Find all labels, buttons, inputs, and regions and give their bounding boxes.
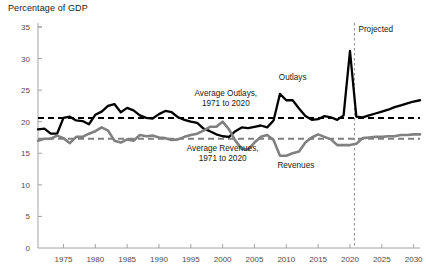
x-tick-label: 2025 [373, 255, 391, 264]
x-tick-label: 1985 [118, 255, 136, 264]
x-tick-label: 2020 [341, 255, 359, 264]
chart-container: Percentage of GDP 0510152025303519751980… [0, 0, 426, 280]
reference-label-1: 1971 to 2020 [199, 154, 247, 163]
y-tick-label: 35 [21, 23, 30, 32]
x-tick-label: 1995 [182, 255, 200, 264]
y-tick-label: 5 [26, 212, 31, 221]
y-tick-label: 15 [21, 149, 30, 158]
x-tick-label: 2000 [214, 255, 232, 264]
y-tick-label: 10 [21, 181, 30, 190]
reference-label-0: Average Outlays, [194, 89, 257, 98]
projected-label: Projected [358, 25, 393, 34]
y-tick-label: 0 [26, 244, 31, 253]
x-tick-label: 2010 [277, 255, 295, 264]
revenues-label: Revenues [277, 161, 314, 170]
y-tick-label: 25 [21, 86, 30, 95]
reference-label-0: 1971 to 2020 [202, 99, 250, 108]
y-tick-label: 20 [21, 118, 30, 127]
x-tick-label: 1975 [55, 255, 73, 264]
x-tick-label: 1980 [86, 255, 104, 264]
x-tick-label: 2005 [246, 255, 264, 264]
line-chart-plot: 0510152025303519751980198519901995200020… [0, 0, 426, 280]
x-tick-label: 2015 [309, 255, 327, 264]
outlays-label: Outlays [279, 73, 307, 82]
y-tick-label: 30 [21, 55, 30, 64]
x-tick-label: 2030 [405, 255, 423, 264]
x-tick-label: 1990 [150, 255, 168, 264]
reference-label-1: Average Revenues, [187, 144, 259, 153]
